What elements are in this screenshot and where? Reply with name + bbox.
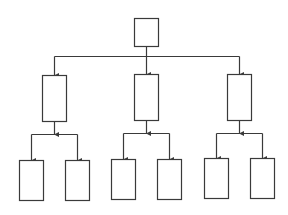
node-box-leaf-1b: [66, 161, 90, 201]
node-box-child-2: [135, 75, 159, 121]
node-box-child-3: [228, 75, 252, 121]
tree-nodes: [20, 19, 275, 201]
node-box-leaf-3a: [205, 159, 229, 199]
node-box-leaf-1a: [20, 161, 44, 201]
node-box-child-1: [43, 76, 67, 122]
org-chart-diagram: [0, 0, 288, 215]
node-box-leaf-2b: [158, 160, 182, 200]
node-box-leaf-2a: [112, 160, 136, 200]
node-box-leaf-3b: [251, 159, 275, 199]
node-box-root: [135, 19, 159, 47]
